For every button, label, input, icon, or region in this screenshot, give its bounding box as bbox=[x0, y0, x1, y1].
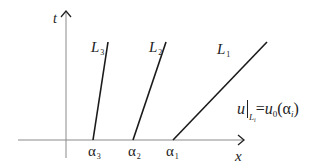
label-L2-main: L bbox=[149, 39, 157, 55]
alpha-2-sub: 2 bbox=[137, 152, 141, 161]
alpha-3-main: α bbox=[88, 143, 96, 159]
label-L1: L1 bbox=[217, 42, 230, 59]
characteristics-diagram: t x L3 L2 L1 α3 α2 α1 uLi=u0(αi) bbox=[0, 0, 327, 168]
label-L3-sub: 3 bbox=[100, 48, 104, 57]
x-axis-label: x bbox=[235, 149, 242, 164]
alpha-3-sub: 3 bbox=[97, 152, 101, 161]
alpha-2-main: α bbox=[128, 143, 136, 159]
alpha-2-label: α2 bbox=[128, 144, 141, 161]
label-L1-sub: 1 bbox=[226, 50, 230, 59]
alpha-1-label: α1 bbox=[166, 144, 179, 161]
boundary-condition-formula: uLi=u0(αi) bbox=[237, 100, 299, 123]
restriction-bar bbox=[247, 100, 248, 118]
alpha-3-label: α3 bbox=[88, 144, 101, 161]
t-axis-label: t bbox=[53, 12, 57, 26]
formula-close-paren: ) bbox=[293, 100, 298, 117]
formula-equals: = bbox=[256, 100, 265, 117]
diagram-graphics bbox=[0, 0, 327, 168]
label-L3: L3 bbox=[91, 40, 104, 57]
formula-restrict-sub: Li bbox=[249, 112, 256, 122]
label-L3-main: L bbox=[91, 39, 99, 55]
formula-restrict-i: i bbox=[254, 117, 256, 123]
alpha-1-main: α bbox=[166, 143, 174, 159]
formula-lhs: u bbox=[237, 100, 245, 117]
label-L2-sub: 2 bbox=[158, 48, 162, 57]
label-L2: L2 bbox=[149, 40, 162, 57]
formula-rhs-arg: α bbox=[283, 100, 291, 117]
formula-rhs-func: u bbox=[265, 100, 273, 117]
label-L1-main: L bbox=[217, 41, 225, 57]
alpha-1-sub: 1 bbox=[175, 152, 179, 161]
